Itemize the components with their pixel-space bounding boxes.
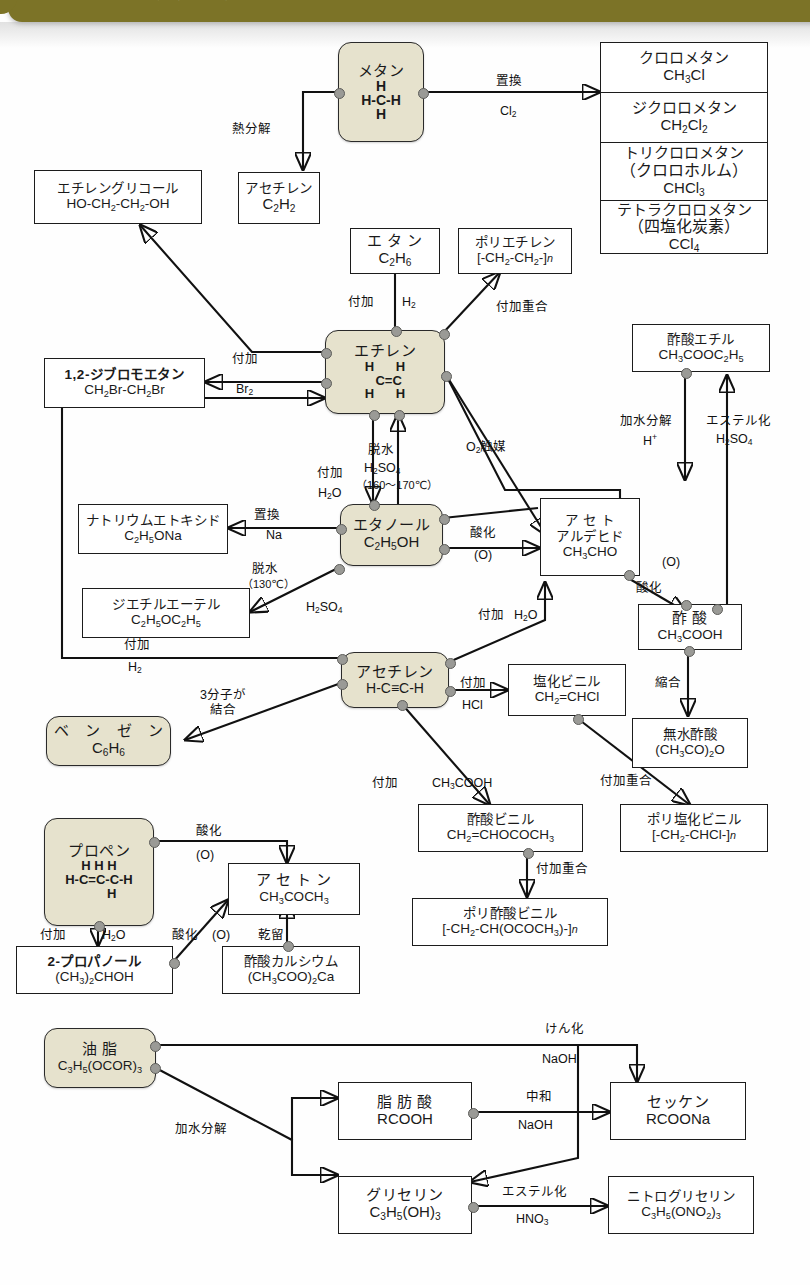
- node-ethylene-glycol[interactable]: エチレングリコール HO-CH2-CH2-OH: [34, 170, 202, 224]
- node-sodium-ethoxide[interactable]: ナトリウムエトキシド C2H5ONa: [78, 504, 228, 554]
- node-acetone-label: ア セ ト ン: [256, 872, 332, 889]
- node-polyethylene-label: ポリエチレン: [475, 235, 556, 250]
- edge-label-addition-polymerization-pvac: 付加重合: [536, 862, 588, 877]
- edge-label-trimerization: 3分子が結合: [200, 688, 246, 718]
- node-vinyl-chloride[interactable]: 塩化ビニル CH2=CHCl: [508, 664, 626, 716]
- edge-label-oxidation-isopropanol: 酸化: [172, 928, 198, 943]
- node-calcium-acetate-label: 酢酸カルシウム: [244, 954, 339, 969]
- node-acetic-acid-label: 酢 酸: [672, 610, 708, 627]
- node-vinyl-acetate-formula: CH2=CHOCOCH3: [447, 827, 554, 844]
- node-methane-label: メタン: [358, 63, 405, 80]
- node-dibromoethane[interactable]: 1,2-ジブロモエタン CH2Br-CH2Br: [44, 358, 205, 408]
- junction-dot-acetaldehyde-right: [624, 570, 635, 581]
- edge-label-addition-h2o-propene: 付加: [40, 928, 66, 943]
- node-nitroglycerin[interactable]: ニトログリセリン C3H5(ONO2)3: [608, 1176, 754, 1234]
- junction-dot-acetylene-right: [445, 686, 456, 697]
- node-tetrachloromethane[interactable]: テトラクロロメタン （四塩化炭素） CCl4: [601, 201, 767, 255]
- junction-dot-aceticacid-bottom: [684, 646, 695, 657]
- node-trichloromethane[interactable]: トリクロロメタン （クロロホルム） CHCl3: [601, 143, 767, 201]
- node-ethylene-label: エチレン: [354, 343, 416, 360]
- node-polyvinyl-acetate[interactable]: ポリ酢酸ビニル [-CH2-CH(OCOCH3)-]n: [412, 898, 608, 946]
- junction-dot-acetylene-bottom: [397, 700, 408, 711]
- edge-reagent-naoh-soap: NaOH: [542, 1052, 577, 1067]
- node-methane[interactable]: メタン H H-C-H H: [338, 42, 424, 142]
- junction-dot-fat-right2: [150, 1063, 161, 1074]
- junction-dot-fat-right1: [150, 1041, 161, 1052]
- junction-dot-isopropanol-right: [169, 958, 180, 969]
- node-acetic-acid[interactable]: 酢 酸 CH3COOH: [638, 604, 742, 650]
- node-fatty-acid[interactable]: 脂 肪 酸 RCOOH: [338, 1082, 472, 1140]
- edge-reagent-h2-ethane: H2: [402, 295, 416, 310]
- node-diethyl-ether[interactable]: ジエチルエーテル C2H5OC2H5: [82, 588, 250, 638]
- node-trichloromethane-label: トリクロロメタン: [624, 145, 744, 162]
- edge-label-neutralization: 中和: [526, 1090, 552, 1105]
- node-pvc[interactable]: ポリ塩化ビニル [-CH2-CHCl-]n: [620, 804, 768, 852]
- edge-reagent-cl2: Cl2: [500, 104, 517, 119]
- node-acetylene[interactable]: アセチレン H-C≡C-H: [341, 652, 449, 708]
- node-fat[interactable]: 油 脂 C3H5(OCOR)3: [44, 1028, 156, 1088]
- node-ethylene-glycol-label: エチレングリコール: [57, 181, 179, 196]
- node-calcium-acetate-formula: (CH3COO)2Ca: [248, 969, 335, 986]
- node-isopropanol-formula: (CH3)2CHOH: [55, 969, 133, 986]
- edge-reagent-hcl: HCl: [462, 698, 483, 713]
- node-acetone[interactable]: ア セ ト ン CH3COCH3: [228, 863, 360, 915]
- node-tetrachloromethane-label: テトラクロロメタン: [617, 202, 752, 219]
- edge-label-addition-br2: 付加: [232, 352, 258, 367]
- edge-reagent-na: Na: [266, 528, 282, 543]
- junction-dot-methane-left: [334, 88, 345, 99]
- junction-dot-calciumacetate-top: [283, 941, 294, 952]
- node-polyvinyl-acetate-label: ポリ酢酸ビニル: [463, 906, 558, 921]
- junction-dot-ethylene-bottom: [369, 410, 380, 421]
- node-isopropanol-label: 2-プロパノール: [47, 954, 141, 969]
- junction-dot-ethanol-bottomleft: [334, 564, 345, 575]
- node-vinyl-acetate-label: 酢酸ビニル: [467, 812, 535, 827]
- node-glycerin[interactable]: グリセリン C3H5(OH)3: [338, 1176, 472, 1234]
- node-chloromethane[interactable]: クロロメタン CH3Cl: [601, 43, 767, 93]
- node-acetaldehyde[interactable]: ア セ ト アルデヒド CH3CHO: [540, 498, 640, 576]
- edge-label-esterification-glycerin: エステル化: [502, 1185, 567, 1200]
- junction-dot-ethylene-right: [441, 371, 452, 382]
- node-ethyl-acetate-formula: CH3COOC2H5: [658, 347, 743, 364]
- edge-label-dehydration-ether: 脱水: [252, 562, 278, 577]
- node-isopropanol[interactable]: 2-プロパノール (CH3)2CHOH: [16, 946, 173, 994]
- edge-label-addition-polymerization-pvc: 付加重合: [600, 774, 652, 789]
- node-propene[interactable]: プロペン H H H H-C=C-C-H H: [44, 818, 154, 926]
- node-vinyl-chloride-formula: CH2=CHCl: [535, 689, 600, 706]
- node-vinyl-acetate[interactable]: 酢酸ビニル CH2=CHOCOCH3: [418, 804, 583, 852]
- node-ethanol[interactable]: エタノール C2H5OH: [340, 504, 443, 566]
- node-tetrachloromethane-alt: （四塩化炭素）: [628, 218, 740, 236]
- node-calcium-acetate[interactable]: 酢酸カルシウム (CH3COO)2Ca: [222, 946, 360, 994]
- node-ethylene[interactable]: エチレン H H C=C H H: [325, 330, 445, 414]
- node-acetylene-top[interactable]: アセチレン C2H2: [238, 172, 320, 224]
- node-ethane[interactable]: エ タ ン C2H6: [350, 228, 440, 274]
- junction-dot-ethanol-topright: [439, 514, 450, 525]
- node-acetic-anhydride[interactable]: 無水酢酸 (CH3CO)2O: [632, 718, 748, 768]
- node-soap[interactable]: セッケン RCOONa: [610, 1082, 746, 1140]
- edge-reagent-ch3cooh: CH3COOH: [432, 776, 492, 791]
- edge-label-dry-distillation: 乾留: [258, 928, 284, 943]
- diagram-canvas: 有機化合物の反応系統図: [0, 0, 810, 1285]
- node-acetic-acid-formula: CH3COOH: [657, 627, 722, 644]
- junction-dot-acetylene-topright: [445, 658, 456, 669]
- junction-dot-ethylene-left1: [321, 348, 332, 359]
- edge-label-esterification: エステル化: [706, 414, 771, 429]
- node-dichloromethane[interactable]: ジクロロメタン CH2Cl2: [601, 93, 767, 143]
- junction-dot-ethylene-left2: [321, 378, 332, 389]
- node-propene-label: プロペン: [68, 843, 130, 860]
- node-chloromethane-group[interactable]: クロロメタン CH3Cl ジクロロメタン CH2Cl2 トリクロロメタン （クロ…: [600, 42, 768, 254]
- node-polyvinyl-acetate-formula: [-CH2-CH(OCOCH3)-]n: [442, 921, 577, 938]
- junction-dot-acetylene-topleft: [337, 654, 348, 665]
- node-methane-structure: H H-C-H H: [361, 79, 401, 121]
- node-glycerin-formula: C3H5(OH)3: [369, 1204, 440, 1222]
- node-diethyl-ether-label: ジエチルエーテル: [112, 597, 220, 612]
- node-polyethylene-formula: [-CH2-CH2-]n: [477, 250, 553, 267]
- junction-dot-acetylene-left: [337, 679, 348, 690]
- edge-reagent-naoh-neutral: NaOH: [518, 1118, 553, 1133]
- edge-label-dehydration-ethylene: 脱水: [368, 443, 394, 458]
- edge-cond-130: （130℃）: [242, 578, 295, 591]
- node-benzene[interactable]: ベ ン ゼ ン C6H6: [46, 716, 171, 766]
- edge-label-addition-polymerization-pe: 付加重合: [496, 300, 548, 315]
- node-ethane-formula: C2H6: [378, 250, 411, 268]
- node-ethyl-acetate[interactable]: 酢酸エチル CH3COOC2H5: [632, 324, 770, 372]
- node-polyethylene[interactable]: ポリエチレン [-CH2-CH2-]n: [458, 228, 572, 274]
